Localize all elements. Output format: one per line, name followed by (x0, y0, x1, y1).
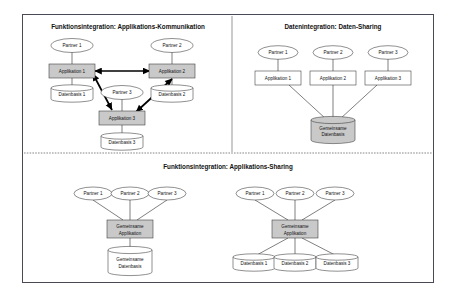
node-partner-2[interactable]: Partner 2 (151, 39, 193, 53)
database-cylinder-top (101, 133, 143, 139)
diagram-stage: Funktionsintegration: Applikations-Kommu… (0, 0, 456, 296)
shared-application-label-line2: Applikation (284, 231, 307, 236)
node-database-2[interactable]: Datenbasis 2 (151, 85, 193, 102)
partner-label: Partner 2 (286, 191, 305, 196)
edge-partner3-shared-app (137, 200, 167, 220)
node-shared-application[interactable]: Gemeinsame Applikation (272, 220, 318, 238)
node-database-3[interactable]: Datenbasis 3 (316, 254, 358, 271)
partner-label: Partner 3 (326, 191, 345, 196)
shared-application-label-line2: Applikation (119, 231, 142, 236)
node-partner-2[interactable]: Partner 2 (313, 46, 353, 60)
database-label: Datenbasis 1 (241, 261, 268, 266)
node-application-2[interactable]: Applikation 2 (310, 71, 356, 85)
variant-separate-db: Partner 1 Partner 2 Partner 3 Gemeinsame… (233, 187, 358, 271)
node-partner-2[interactable]: Partner 2 (276, 187, 314, 200)
node-shared-database[interactable]: Gemeinsame Datenbasis (311, 116, 355, 143)
database-cylinder-top (311, 116, 355, 123)
node-application-1[interactable]: Applikation 1 (49, 64, 95, 78)
node-partner-3[interactable]: Partner 3 (368, 46, 408, 60)
application-label: Applikation 3 (375, 76, 402, 81)
partner-label: Partner 1 (84, 191, 103, 196)
shared-database-label-line1: Gemeinsame (319, 126, 347, 131)
partner-label: Partner 3 (113, 90, 132, 95)
database-cylinder-top (316, 254, 358, 260)
diagram-canvas: Funktionsintegration: Applikations-Kommu… (0, 0, 456, 296)
edge-partner3-shared-app (302, 200, 335, 220)
node-partner-3[interactable]: Partner 3 (148, 187, 186, 200)
partner-label: Partner 2 (163, 43, 182, 48)
application-label: Applikation 1 (59, 69, 86, 74)
application-label: Applikation 3 (109, 116, 136, 121)
panel-daten-sharing: Datenintegration: Daten-Sharing Partner … (255, 23, 411, 144)
node-shared-application[interactable]: Gemeinsame Applikation (107, 220, 153, 238)
node-partner-2[interactable]: Partner 2 (111, 187, 149, 200)
edge-app1-shared-db (289, 85, 326, 119)
edge-shared-app-db3 (302, 238, 337, 256)
partner-label: Partner 2 (121, 191, 140, 196)
node-partner-3[interactable]: Partner 3 (101, 86, 143, 100)
application-label: Applikation 2 (320, 76, 347, 81)
panel-title: Funktionsintegration: Applikations-Kommu… (51, 23, 205, 31)
shared-database-label-line2: Datenbasis (322, 132, 346, 137)
database-cylinder-top (51, 85, 93, 91)
node-application-3[interactable]: Applikation 3 (99, 111, 145, 125)
node-database-2[interactable]: Datenbasis 2 (274, 254, 316, 271)
database-label: Datenbasis 3 (109, 140, 136, 145)
node-database-1[interactable]: Datenbasis 1 (233, 254, 275, 271)
panel-app-sharing: Funktionsintegration: Applikations-Shari… (74, 163, 358, 276)
database-label: Datenbasis 2 (282, 261, 309, 266)
panel-title: Funktionsintegration: Applikations-Shari… (163, 163, 293, 171)
edge-partner1-shared-app (255, 200, 288, 220)
partner-label: Partner 1 (269, 50, 288, 55)
node-application-3[interactable]: Applikation 3 (365, 71, 411, 85)
panel-app-kommunikation: Funktionsintegration: Applikations-Kommu… (49, 23, 205, 150)
node-partner-1[interactable]: Partner 1 (258, 46, 298, 60)
partner-label: Partner 1 (63, 43, 82, 48)
application-label: Applikation 2 (159, 69, 186, 74)
node-database-3[interactable]: Datenbasis 3 (101, 133, 143, 150)
node-database-1[interactable]: Datenbasis 1 (51, 85, 93, 102)
shared-application-label-line1: Gemeinsame (116, 224, 144, 229)
variant-shared-db: Partner 1 Partner 2 Partner 3 Gemeinsame… (74, 187, 186, 276)
partner-label: Partner 3 (379, 50, 398, 55)
shared-database-label-line1: Gemeinsame (116, 257, 144, 262)
edge-shared-app-db1 (255, 238, 288, 256)
partner-label: Partner 2 (324, 50, 343, 55)
node-application-1[interactable]: Applikation 1 (255, 71, 301, 85)
node-partner-1[interactable]: Partner 1 (236, 187, 274, 200)
database-label: Datenbasis 3 (324, 261, 351, 266)
node-shared-database[interactable]: Gemeinsame Datenbasis (108, 246, 152, 275)
panel-title: Datenintegration: Daten-Sharing (285, 23, 382, 31)
partner-label: Partner 3 (158, 191, 177, 196)
application-label: Applikation 1 (265, 76, 292, 81)
database-cylinder-top (274, 254, 316, 260)
shared-application-label-line1: Gemeinsame (281, 224, 309, 229)
database-cylinder-top (151, 85, 193, 91)
database-label: Datenbasis 1 (59, 92, 86, 97)
database-label: Datenbasis 2 (159, 92, 186, 97)
node-partner-1[interactable]: Partner 1 (51, 39, 93, 53)
node-application-2[interactable]: Applikation 2 (149, 64, 195, 78)
database-cylinder-top (108, 246, 152, 253)
edge-partner1-shared-app (93, 200, 123, 220)
partner-label: Partner 1 (246, 191, 265, 196)
shared-database-label-line2: Datenbasis (119, 264, 143, 269)
node-partner-1[interactable]: Partner 1 (74, 187, 112, 200)
node-partner-3[interactable]: Partner 3 (316, 187, 354, 200)
edge-app3-shared-db (340, 85, 377, 119)
database-cylinder-top (233, 254, 275, 260)
